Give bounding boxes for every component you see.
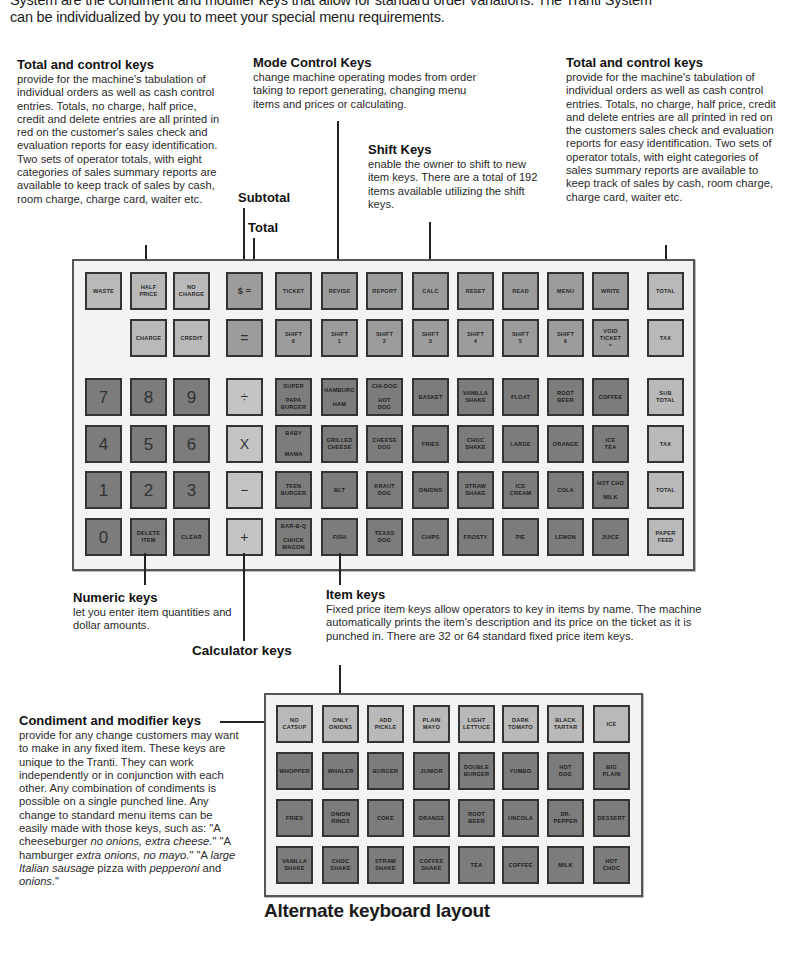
alt-key-item[interactable]: COFFEE SHAKE xyxy=(413,846,450,884)
alt-key-item[interactable]: ONION RINGS xyxy=(322,799,359,837)
key-item[interactable]: LARGE xyxy=(502,425,539,463)
key-void-ticket[interactable]: VOID TICKET = xyxy=(592,319,629,357)
key-item[interactable]: CHIPS xyxy=(412,518,449,556)
key-tax[interactable]: TAX xyxy=(647,425,684,463)
key-item[interactable]: FISH xyxy=(321,518,358,556)
alt-key-item[interactable]: CHOC SHAKE xyxy=(322,846,359,884)
alt-key-item[interactable]: BURGER xyxy=(367,752,404,790)
key-5[interactable]: 5 xyxy=(130,425,167,463)
key-item[interactable]: CHEESE DOG xyxy=(366,425,403,463)
alt-key-item[interactable]: MILK xyxy=(547,846,584,884)
alt-key-item[interactable]: COKE xyxy=(367,799,404,837)
key-item[interactable]: LEMON xyxy=(547,518,584,556)
alt-key-item[interactable]: JUNIOR xyxy=(413,752,450,790)
key-revise[interactable]: REVISE xyxy=(321,272,358,310)
key-shift-4[interactable]: SHIFT 4 xyxy=(457,319,494,357)
key-item[interactable]: COFFEE xyxy=(592,378,629,416)
key-calc[interactable]: CALC xyxy=(412,272,449,310)
key-multiply[interactable]: X xyxy=(226,425,263,463)
key-item[interactable]: KRAUT DOG xyxy=(366,471,403,509)
key-write[interactable]: WRITE xyxy=(592,272,629,310)
key-subtotal[interactable]: SUB TOTAL xyxy=(647,378,684,416)
alt-key-item[interactable]: ROOT BEER xyxy=(458,799,495,837)
key-8[interactable]: 8 xyxy=(130,378,167,416)
alt-key-item[interactable]: ORANGE xyxy=(413,799,450,837)
key-1[interactable]: 1 xyxy=(85,471,122,509)
key-minus[interactable]: − xyxy=(226,471,263,509)
key-item[interactable]: BAR-B-Q CHUCK WAGON xyxy=(275,518,312,556)
key-no-charge[interactable]: NO CHARGE xyxy=(173,272,210,310)
key-shift-5[interactable]: SHIFT 5 xyxy=(502,319,539,357)
key-item[interactable]: FROSTY xyxy=(457,518,494,556)
key-shift-0[interactable]: SHIFT 0 xyxy=(275,319,312,357)
key-item[interactable]: VANILLA SHAKE xyxy=(457,378,494,416)
key-item[interactable]: FLOAT xyxy=(502,378,539,416)
alt-key-item[interactable]: BIG PLAIN xyxy=(593,752,630,790)
key-shift-1[interactable]: SHIFT 1 xyxy=(321,319,358,357)
key-delete-item[interactable]: DELETE ITEM xyxy=(130,518,167,556)
key-waste[interactable]: WASTE xyxy=(85,272,122,310)
alt-key-item[interactable]: COFFEE xyxy=(502,846,539,884)
alt-key-black-tartar[interactable]: BLACK TARTAR xyxy=(547,705,584,743)
key-7[interactable]: 7 xyxy=(85,378,122,416)
alt-key-item[interactable]: DOUBLE BURGER xyxy=(458,752,495,790)
key-9[interactable]: 9 xyxy=(173,378,210,416)
alt-key-only-onions[interactable]: ONLY ONIONS xyxy=(322,705,359,743)
alt-key-item[interactable]: FRIES xyxy=(276,799,313,837)
key-ticket[interactable]: TICKET xyxy=(275,272,312,310)
key-item[interactable]: COLA xyxy=(547,471,584,509)
key-item[interactable]: TEEN BURGER xyxy=(275,471,312,509)
key-paper-feed[interactable]: PAPER FEED xyxy=(647,518,684,556)
key-shift-3[interactable]: SHIFT 3 xyxy=(412,319,449,357)
alt-key-item[interactable]: TEA xyxy=(458,846,495,884)
alt-key-item[interactable]: HOT DOG xyxy=(547,752,584,790)
alt-key-item[interactable]: WHALER xyxy=(322,752,359,790)
key-6[interactable]: 6 xyxy=(173,425,210,463)
key-equals[interactable]: = xyxy=(226,319,263,357)
key-item[interactable]: CHOC SHAKE xyxy=(457,425,494,463)
alt-key-no-catsup[interactable]: NO CATSUP xyxy=(276,705,313,743)
key-reset[interactable]: RESET xyxy=(457,272,494,310)
alt-key-add-pickle[interactable]: ADD PICKLE xyxy=(367,705,404,743)
alt-key-item[interactable]: HOT CHOC xyxy=(593,846,630,884)
key-item[interactable]: STRAW SHAKE xyxy=(457,471,494,509)
key-item[interactable]: ONIONS xyxy=(412,471,449,509)
alt-key-dark-tomato[interactable]: DARK TOMATO xyxy=(502,705,539,743)
key-item[interactable]: SUPER PAPA BURGER xyxy=(275,378,312,416)
alt-key-item[interactable]: VANILLA SHAKE xyxy=(276,846,313,884)
key-clear[interactable]: CLEAR xyxy=(173,518,210,556)
key-half-price[interactable]: HALF PRICE xyxy=(130,272,167,310)
key-dollar-equals[interactable]: $ = xyxy=(226,272,263,310)
key-charge[interactable]: CHARGE xyxy=(130,319,167,357)
key-tax-top[interactable]: TAX xyxy=(647,319,684,357)
key-item[interactable]: BASKET xyxy=(412,378,449,416)
key-0[interactable]: 0 xyxy=(85,518,122,556)
key-item[interactable]: ORANGE xyxy=(547,425,584,463)
key-shift-2[interactable]: SHIFT 2 xyxy=(366,319,403,357)
key-item[interactable]: ICE TEA xyxy=(592,425,629,463)
key-shift-6[interactable]: SHIFT 6 xyxy=(547,319,584,357)
key-item[interactable]: BABY MAMA xyxy=(275,425,312,463)
alt-key-item[interactable]: DR. PEPPER xyxy=(547,799,584,837)
alt-key-light-lettuce[interactable]: LIGHT LETTUCE xyxy=(458,705,495,743)
key-report[interactable]: REPORT xyxy=(366,272,403,310)
key-item[interactable]: ICE CREAM xyxy=(502,471,539,509)
key-item[interactable]: GRILLED CHEESE xyxy=(321,425,358,463)
key-item[interactable]: FRIES xyxy=(412,425,449,463)
key-item[interactable]: HOT CHO MILK xyxy=(592,471,629,509)
key-read[interactable]: READ xyxy=(502,272,539,310)
key-4[interactable]: 4 xyxy=(85,425,122,463)
key-total-top[interactable]: TOTAL xyxy=(647,272,684,310)
key-total[interactable]: TOTAL xyxy=(647,471,684,509)
key-3[interactable]: 3 xyxy=(173,471,210,509)
alt-key-item[interactable]: WHOPPER xyxy=(276,752,313,790)
key-divide[interactable]: ÷ xyxy=(226,378,263,416)
key-item[interactable]: CHI-DOG HOT DOG xyxy=(366,378,403,416)
alt-key-item[interactable]: STRAW SHAKE xyxy=(367,846,404,884)
key-item[interactable]: HAMBURG HAM xyxy=(321,378,358,416)
key-plus[interactable]: + xyxy=(226,518,263,556)
alt-key-ice[interactable]: ICE xyxy=(593,705,630,743)
key-item[interactable]: ROOT BEER xyxy=(547,378,584,416)
key-item[interactable]: PIE xyxy=(502,518,539,556)
key-item[interactable]: TEXAS DOG xyxy=(366,518,403,556)
